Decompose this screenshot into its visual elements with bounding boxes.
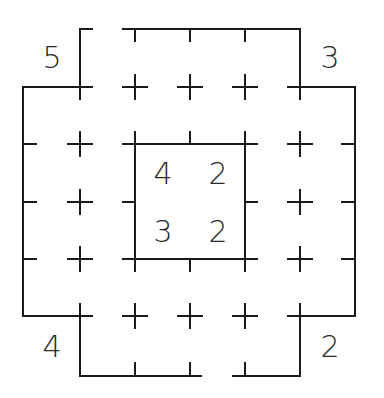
clue-inner-r2c2: 2	[208, 214, 227, 249]
clue-inner-r2c1: 3	[153, 214, 172, 249]
inner-corner-br	[245, 259, 258, 272]
corner-br-ext	[287, 303, 300, 316]
bottom-ticks	[135, 362, 245, 376]
plus-mark	[287, 189, 313, 215]
plus-mark	[177, 74, 203, 100]
inner-corner-bl	[122, 259, 135, 272]
plus-mark	[287, 131, 313, 157]
inner-corner-tl	[122, 131, 135, 144]
puzzle-grid: 5 3 4 2 4 2 3 2	[0, 0, 384, 398]
right-ticks	[341, 144, 355, 259]
plus-mark	[177, 303, 203, 329]
clue-top-right: 3	[320, 40, 339, 75]
plus-mark	[287, 246, 313, 272]
clue-bottom-left: 4	[42, 329, 61, 364]
plus-mark	[122, 303, 148, 329]
plus-mark	[122, 74, 148, 100]
plus-mark	[67, 131, 93, 157]
inner-box	[135, 144, 245, 259]
border-right	[122, 29, 355, 376]
plus-mark	[67, 246, 93, 272]
clue-top-left: 5	[42, 40, 61, 75]
corner-tl-ext	[80, 87, 93, 100]
corner-tr-ext	[287, 87, 300, 100]
clue-inner-r1c2: 2	[208, 156, 227, 191]
top-ticks	[135, 29, 245, 42]
grid-lines	[23, 29, 355, 376]
plus-mark	[232, 74, 258, 100]
inner-corner-tr	[245, 131, 258, 144]
left-ticks	[23, 144, 37, 259]
clue-inner-r1c1: 4	[153, 156, 172, 191]
corner-bl-ext	[80, 303, 93, 316]
clue-bottom-right: 2	[320, 329, 339, 364]
border-top-left-stub	[80, 29, 93, 87]
plus-mark	[232, 303, 258, 329]
puzzle-board: 5 3 4 2 4 2 3 2	[0, 0, 384, 398]
plus-mark	[67, 189, 93, 215]
